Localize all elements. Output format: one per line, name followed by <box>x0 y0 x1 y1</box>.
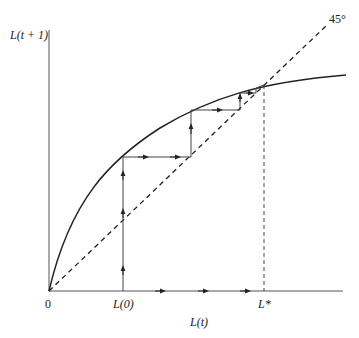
cobweb-diagram: L(t + 1) 45° 0 L(0) L* L(t) <box>0 0 359 338</box>
direction-arrows <box>123 93 251 291</box>
growth-curve <box>49 75 346 291</box>
x-axis-label: L(t) <box>190 315 208 330</box>
diagram-canvas <box>0 0 359 338</box>
x-tick-Lstar: L* <box>258 297 271 312</box>
cobweb-path <box>123 85 264 291</box>
y-axis-label: L(t + 1) <box>10 28 48 43</box>
origin-label: 0 <box>45 297 51 312</box>
diagonal-45-line <box>49 25 327 291</box>
diagonal-label: 45° <box>329 12 346 27</box>
x-tick-L0: L(0) <box>113 297 134 312</box>
